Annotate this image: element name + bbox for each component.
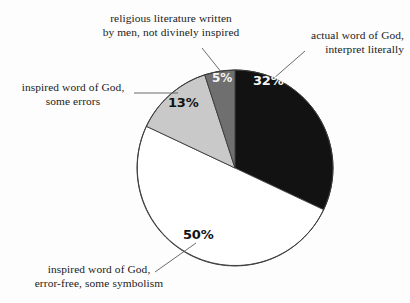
slice-value-label-13: 13%	[168, 95, 199, 110]
callout-line-2: interpret literally	[272, 42, 404, 56]
slice-value-label-5: 5%	[212, 71, 232, 85]
callout-inspired-error-free: inspired word of God, error-free, some s…	[14, 262, 184, 290]
callout-line-2: by men, not divinely inspired	[92, 25, 250, 39]
callout-actual-word-of-god: actual word of God, interpret literally	[272, 28, 404, 56]
callout-line-2: error-free, some symbolism	[14, 276, 184, 290]
callout-line-1: inspired word of God,	[12, 80, 134, 94]
callout-inspired-some-errors: inspired word of God, some errors	[12, 80, 134, 108]
pie-chart-figure: religious literature written by men, not…	[0, 0, 410, 303]
callout-line-1: inspired word of God,	[14, 262, 184, 276]
callout-line-2: some errors	[12, 94, 134, 108]
callout-religious-literature: religious literature written by men, not…	[92, 11, 250, 39]
callout-line-1: actual word of God,	[272, 28, 404, 42]
pie-slices	[137, 70, 333, 266]
leader-line-religious-literature	[202, 48, 222, 73]
slice-value-label-32: 32%	[253, 73, 284, 88]
callout-line-1: religious literature written	[92, 11, 250, 25]
slice-value-label-50: 50%	[183, 227, 214, 242]
